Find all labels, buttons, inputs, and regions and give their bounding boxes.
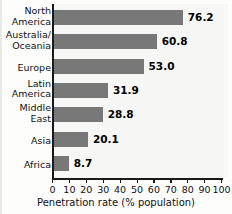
bar-value-label: 8.7 <box>74 156 93 171</box>
x-tick-label: 90 <box>199 184 211 195</box>
bar-value-label: 53.0 <box>149 59 175 74</box>
x-tick-label: 100 <box>212 184 230 195</box>
bar-row: Asia20.1 <box>0 126 232 150</box>
category-label: North America <box>1 6 51 27</box>
bar-row: Latin America31.9 <box>0 77 232 101</box>
x-tick-label: 80 <box>182 184 194 195</box>
y-axis-line <box>52 4 54 178</box>
x-tick-label: 30 <box>97 184 109 195</box>
bar-rows: North America76.2Australia/ Oceania60.8E… <box>0 4 232 174</box>
x-tick-mark <box>204 178 205 183</box>
category-label: Asia <box>1 136 51 147</box>
bar-value-label: 20.1 <box>93 132 119 147</box>
x-axis-title: Penetration rate (% population) <box>0 197 232 208</box>
category-label: Australia/ Oceania <box>1 30 51 51</box>
bar-row: Africa8.7 <box>0 150 232 174</box>
x-tick-mark <box>170 178 171 183</box>
bar <box>54 34 157 49</box>
x-tick-mark <box>103 178 104 183</box>
bar-value-label: 31.9 <box>113 83 139 98</box>
x-tick-label: 50 <box>131 184 143 195</box>
x-tick-label: 40 <box>114 184 126 195</box>
bar-value-label: 60.8 <box>162 34 188 49</box>
x-tick-mark <box>153 178 154 183</box>
x-tick-mark <box>221 178 222 183</box>
category-label: Africa <box>1 160 51 171</box>
x-tick-label: 60 <box>148 184 160 195</box>
category-label: Europe <box>1 63 51 74</box>
bar <box>54 132 88 147</box>
bar-chart: North America76.2Australia/ Oceania60.8E… <box>0 0 232 214</box>
x-tick-label: 0 <box>49 184 55 195</box>
x-tick-label: 10 <box>63 184 75 195</box>
category-label: Middle East <box>1 103 51 124</box>
bar-value-label: 28.8 <box>108 107 134 122</box>
bar-row: Middle East28.8 <box>0 101 232 125</box>
x-tick-label: 20 <box>80 184 92 195</box>
x-tick-mark <box>52 178 53 183</box>
x-tick-label: 70 <box>165 184 177 195</box>
bar <box>54 156 69 171</box>
x-tick-mark <box>187 178 188 183</box>
bar-row: Europe53.0 <box>0 53 232 77</box>
x-tick-mark <box>137 178 138 183</box>
category-label: Latin America <box>1 79 51 100</box>
bar <box>54 59 144 74</box>
bar-row: North America76.2 <box>0 4 232 28</box>
bar <box>54 10 183 25</box>
bar-row: Australia/ Oceania60.8 <box>0 28 232 52</box>
x-tick-mark <box>86 178 87 183</box>
x-tick-mark <box>69 178 70 183</box>
x-tick-mark <box>120 178 121 183</box>
bar <box>54 107 103 122</box>
bar <box>54 83 108 98</box>
bar-value-label: 76.2 <box>188 10 214 25</box>
